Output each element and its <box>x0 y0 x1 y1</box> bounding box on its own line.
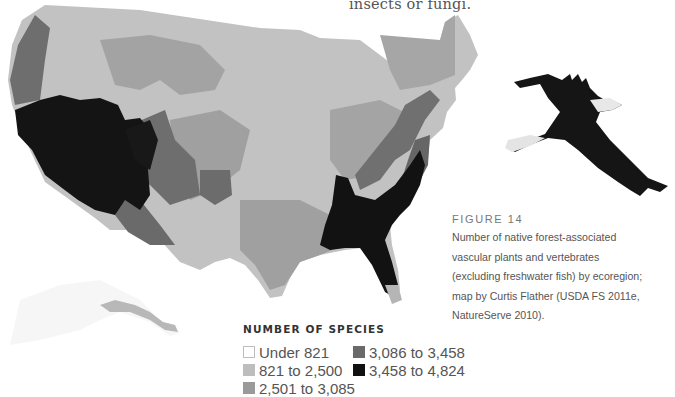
legend-title: NUMBER OF SPECIES <box>243 323 473 335</box>
legend-swatch <box>243 364 255 376</box>
legend-swatch <box>353 364 365 376</box>
legend-item-under-821: Under 821 <box>243 343 351 361</box>
figure-caption-text: Number of native forest-associated vascu… <box>452 228 674 326</box>
alaska-outline <box>10 280 180 345</box>
caption-line: (excluding freshwater fish) by ecoregion… <box>452 267 674 287</box>
bald-eagle-image <box>505 74 668 196</box>
caption-line: Number of native forest-associated <box>452 228 674 248</box>
legend-item-821-2500: 821 to 2,500 <box>243 361 351 379</box>
legend-label: 3,458 to 4,824 <box>369 362 465 379</box>
legend-label: 821 to 2,500 <box>259 362 342 379</box>
caption-line: map by Curtis Flather (USDA FS 2011e, <box>452 287 674 307</box>
legend-label: Under 821 <box>259 344 329 361</box>
legend-item-3458-4824: 3,458 to 4,824 <box>353 361 473 379</box>
map-legend: NUMBER OF SPECIES Under 821 821 to 2,500… <box>243 323 473 397</box>
legend-item-2501-3085: 2,501 to 3,085 <box>243 379 351 397</box>
legend-swatch <box>243 382 255 394</box>
figure-label: FIGURE 14 <box>452 213 674 225</box>
legend-swatch <box>353 346 365 358</box>
legend-item-3086-3458: 3,086 to 3,458 <box>353 343 473 361</box>
figure-caption: FIGURE 14 Number of native forest-associ… <box>452 213 674 326</box>
legend-swatch <box>243 346 255 358</box>
legend-label: 3,086 to 3,458 <box>369 344 465 361</box>
legend-items: Under 821 821 to 2,500 2,501 to 3,085 3,… <box>243 343 473 397</box>
legend-label: 2,501 to 3,085 <box>259 380 355 397</box>
caption-line: NatureServe 2010). <box>452 306 674 326</box>
caption-line: vascular plants and vertebrates <box>452 248 674 268</box>
